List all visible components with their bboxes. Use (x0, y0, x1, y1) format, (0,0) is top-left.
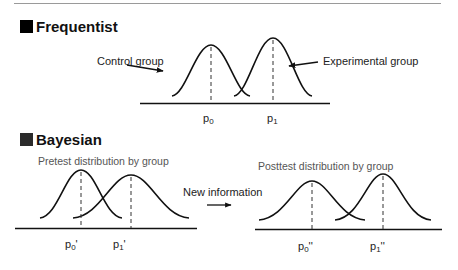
distribution-diagram (0, 0, 458, 270)
experimental-arrow-icon (289, 62, 318, 66)
experimental-curve (234, 38, 312, 96)
pretest-experimental-curve (73, 175, 189, 218)
control-arrow-icon (127, 65, 163, 71)
